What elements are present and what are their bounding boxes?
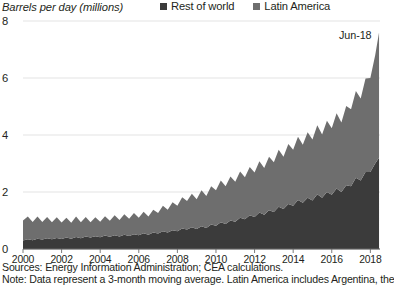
square-swatch-icon: [160, 3, 167, 10]
square-swatch-icon: [253, 3, 260, 10]
x-axis-tick-label: 2018: [353, 255, 387, 265]
legend-item-label: Latin America: [264, 1, 330, 12]
y-axis-tick-label: 4: [2, 130, 8, 141]
y-axis-tick-label: 0: [2, 244, 8, 255]
legend-item-latin-america[interactable]: Latin America: [253, 1, 330, 12]
x-axis-tick-label: 2016: [315, 255, 349, 265]
legend-item-label: Rest of world: [171, 1, 234, 12]
data-note: Note: Data represent a 3-month moving av…: [2, 274, 394, 285]
chart-legend: Rest of world Latin America: [160, 1, 330, 12]
chart-header: Barrels per day (millions) Rest of world…: [0, 0, 384, 16]
y-axis-tick-label: 2: [2, 187, 8, 198]
y-axis-tick-label: 6: [2, 73, 8, 84]
y-axis-title: Barrels per day (millions): [2, 1, 123, 13]
stacked-area-plot: [0, 16, 384, 256]
plot-area: 02468 2000200220042006200820102012201420…: [0, 16, 384, 256]
y-axis-tick-label: 8: [2, 16, 8, 27]
legend-item-rest-of-world[interactable]: Rest of world: [160, 1, 234, 12]
sources-note: Sources: Energy Information Administrati…: [2, 262, 283, 273]
peak-annotation: Jun-18: [339, 30, 371, 41]
